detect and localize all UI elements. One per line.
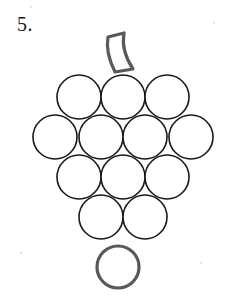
grape-circle <box>79 115 123 159</box>
grape-circle <box>145 75 189 119</box>
grape-circle <box>101 75 145 119</box>
grape-circle <box>97 246 139 288</box>
paper-speck <box>200 262 202 264</box>
grape-circle <box>123 195 167 239</box>
paper-speck <box>30 6 32 8</box>
worksheet-page: 5. <box>0 0 229 299</box>
grape-circle <box>145 155 189 199</box>
grape-bunch-figure <box>0 0 229 299</box>
grape-circle <box>57 75 101 119</box>
paper-speck <box>20 252 22 254</box>
grape-circle <box>169 115 213 159</box>
paper-speck <box>213 22 215 24</box>
grape-row-5 <box>97 246 139 288</box>
grape-circle <box>57 155 101 199</box>
grape-circle <box>79 195 123 239</box>
grape-stem-icon <box>107 33 133 72</box>
grape-row-3 <box>57 155 189 199</box>
grape-circle <box>123 115 167 159</box>
grape-circle <box>33 115 77 159</box>
grape-circle-group <box>33 75 213 288</box>
grape-row-2 <box>33 115 213 159</box>
grape-row-1 <box>57 75 189 119</box>
grape-row-4 <box>79 195 167 239</box>
grape-circle <box>101 155 145 199</box>
